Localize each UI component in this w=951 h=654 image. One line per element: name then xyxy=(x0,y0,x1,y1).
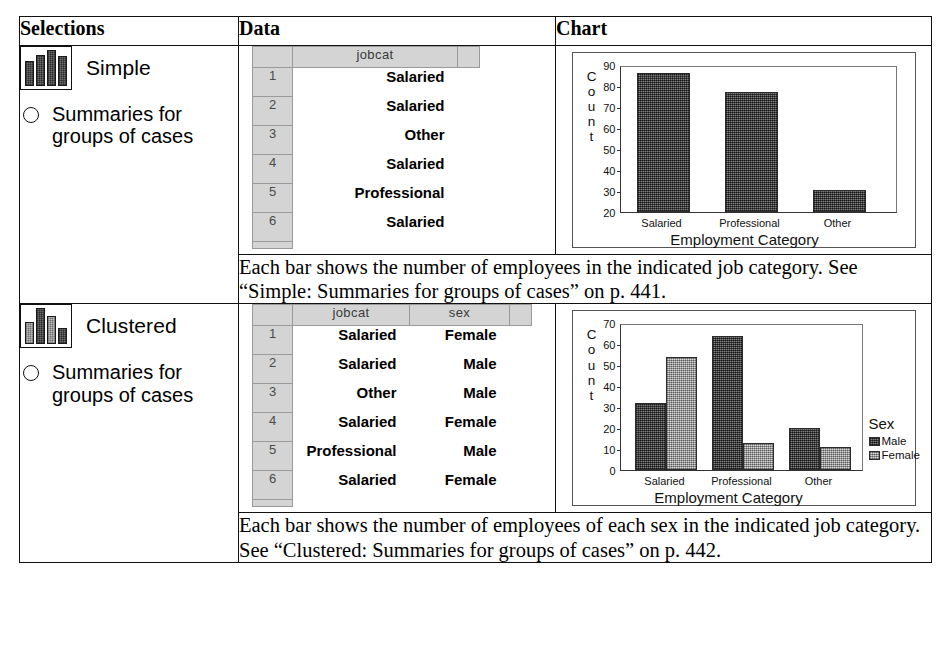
grid-column-header-jobcat[interactable]: jobcat xyxy=(293,47,458,68)
radio-button-simple[interactable] xyxy=(23,107,39,123)
bar-professional xyxy=(725,92,778,212)
grid-row[interactable]: 1 Salaried Female xyxy=(253,326,532,355)
grid-row[interactable]: 3 Other xyxy=(253,126,480,155)
chart-y-tick-label: 70 xyxy=(596,318,616,330)
grid-cell-sex[interactable]: Male xyxy=(410,442,510,471)
grid-column-header-jobcat[interactable]: jobcat xyxy=(293,305,410,326)
selection-title-simple: Simple xyxy=(86,56,151,80)
grid-row[interactable]: 4 Salaried Female xyxy=(253,413,532,442)
chart-plot-area xyxy=(620,66,897,213)
grid-row[interactable]: 3 Other Male xyxy=(253,384,532,413)
grid-row-number[interactable]: 6 xyxy=(253,471,293,500)
bar-other xyxy=(813,190,866,212)
grid-cell-sex[interactable]: Female xyxy=(410,471,510,500)
selection-header-simple: Simple xyxy=(20,46,238,90)
radio-button-clustered[interactable] xyxy=(23,365,39,381)
selection-title-clustered: Clustered xyxy=(86,314,177,338)
table-row: Clustered Summaries for groups of cases … xyxy=(20,304,932,513)
grid-cell-jobcat[interactable]: Salaried xyxy=(293,213,458,242)
grid-cell-pad xyxy=(458,242,480,249)
bar-salaried-male xyxy=(635,403,666,470)
column-header-data: Data xyxy=(239,17,556,46)
grid-cell-pad xyxy=(510,500,532,507)
document-page: Selections Data Chart Simple xyxy=(0,0,951,654)
selection-option-label-simple: Summaries for groups of cases xyxy=(52,103,193,148)
chart-y-tick-label: 30 xyxy=(596,186,616,198)
grid-row[interactable]: 2 Salaried Male xyxy=(253,355,532,384)
grid-row[interactable]: 5 Professional Male xyxy=(253,442,532,471)
grid-cell-sex[interactable]: Female xyxy=(410,413,510,442)
legend-label-male: Male xyxy=(882,435,907,447)
grid-row-number[interactable]: 6 xyxy=(253,213,293,242)
grid-row-number[interactable]: 4 xyxy=(253,155,293,184)
grid-cell-jobcat[interactable]: Salaried xyxy=(293,355,410,384)
data-cell-clustered: jobcat sex 1 Salaried Female 2 Sal xyxy=(239,304,556,513)
grid-cell-pad xyxy=(458,155,480,184)
grid-row-number-partial xyxy=(253,242,293,249)
grid-cell-jobcat[interactable]: Other xyxy=(293,126,458,155)
grid-column-header-sex[interactable]: sex xyxy=(410,305,510,326)
grid-cell-sex[interactable]: Male xyxy=(410,355,510,384)
selection-option-clustered[interactable]: Summaries for groups of cases xyxy=(20,361,238,406)
grid-row[interactable]: 1 Salaried xyxy=(253,68,480,97)
grid-header-row: jobcat xyxy=(253,47,480,68)
selection-header-clustered: Clustered xyxy=(20,304,238,348)
chart-y-tick-label: 40 xyxy=(596,381,616,393)
chart-cell-simple: Count 90 80 70 60 50 xyxy=(556,46,932,255)
grid-row-number[interactable]: 2 xyxy=(253,97,293,126)
grid-row-number[interactable]: 4 xyxy=(253,413,293,442)
chart-y-tick-label: 80 xyxy=(596,81,616,93)
grid-cell-jobcat[interactable]: Salaried xyxy=(293,326,410,355)
grid-row-number[interactable]: 3 xyxy=(253,126,293,155)
chart-x-tick-label: Professional xyxy=(719,217,780,229)
grid-cell-sex[interactable]: Female xyxy=(410,326,510,355)
grid-row[interactable]: 6 Salaried Female xyxy=(253,471,532,500)
grid-row-partial xyxy=(253,500,532,507)
legend-entry-male: Male xyxy=(869,435,920,447)
simple-bar-chart-icon[interactable] xyxy=(20,46,72,90)
grid-row[interactable]: 6 Salaried xyxy=(253,213,480,242)
grid-row-number[interactable]: 3 xyxy=(253,384,293,413)
chart-simple: Count 90 80 70 60 50 xyxy=(572,52,916,248)
grid-cell-sex[interactable]: Male xyxy=(410,384,510,413)
chart-x-tick-label: Other xyxy=(805,475,833,487)
grid-cell-jobcat[interactable]: Other xyxy=(293,384,410,413)
table-row: Simple Summaries for groups of cases job… xyxy=(20,46,932,255)
grid-row-number[interactable]: 5 xyxy=(253,442,293,471)
grid-row[interactable]: 4 Salaried xyxy=(253,155,480,184)
bar-salaried-female xyxy=(666,357,697,470)
chart-clustered: Count 70 60 50 xyxy=(572,310,916,506)
grid-cell-pad xyxy=(510,326,532,355)
grid-row-number[interactable]: 1 xyxy=(253,326,293,355)
grid-row-number[interactable]: 5 xyxy=(253,184,293,213)
grid-cell-jobcat[interactable]: Professional xyxy=(293,184,458,213)
caption-simple: Each bar shows the number of employees i… xyxy=(239,255,932,304)
grid-cell-jobcat[interactable]: Salaried xyxy=(293,471,410,500)
grid-cell-partial xyxy=(293,500,410,507)
grid-cell-jobcat[interactable]: Salaried xyxy=(293,68,458,97)
grid-row-number[interactable]: 2 xyxy=(253,355,293,384)
grid-cell-jobcat[interactable]: Salaried xyxy=(293,413,410,442)
grid-cell-jobcat[interactable]: Professional xyxy=(293,442,410,471)
grid-cell-pad xyxy=(510,442,532,471)
table-header-row: Selections Data Chart xyxy=(20,17,932,46)
grid-cell-pad xyxy=(510,471,532,500)
chart-x-axis-title: Employment Category xyxy=(654,489,802,506)
grid-row-number[interactable]: 1 xyxy=(253,68,293,97)
bar-other-female xyxy=(820,447,851,470)
grid-cell-pad xyxy=(510,384,532,413)
grid-row[interactable]: 5 Professional xyxy=(253,184,480,213)
grid-header-row: jobcat sex xyxy=(253,305,532,326)
grid-cell-jobcat[interactable]: Salaried xyxy=(293,155,458,184)
grid-row[interactable]: 2 Salaried xyxy=(253,97,480,126)
bar-salaried xyxy=(637,73,690,212)
grid-row-number-partial xyxy=(253,500,293,507)
grid-cell-pad xyxy=(458,184,480,213)
selection-option-simple[interactable]: Summaries for groups of cases xyxy=(20,103,238,148)
grid-cell-jobcat[interactable]: Salaried xyxy=(293,97,458,126)
chart-y-tick-label: 10 xyxy=(596,444,616,456)
clustered-bar-chart-icon[interactable] xyxy=(20,304,72,348)
selections-cell-simple: Simple Summaries for groups of cases xyxy=(20,46,239,304)
chart-x-axis-title: Employment Category xyxy=(670,231,818,248)
grid-column-header-stub xyxy=(458,47,480,68)
